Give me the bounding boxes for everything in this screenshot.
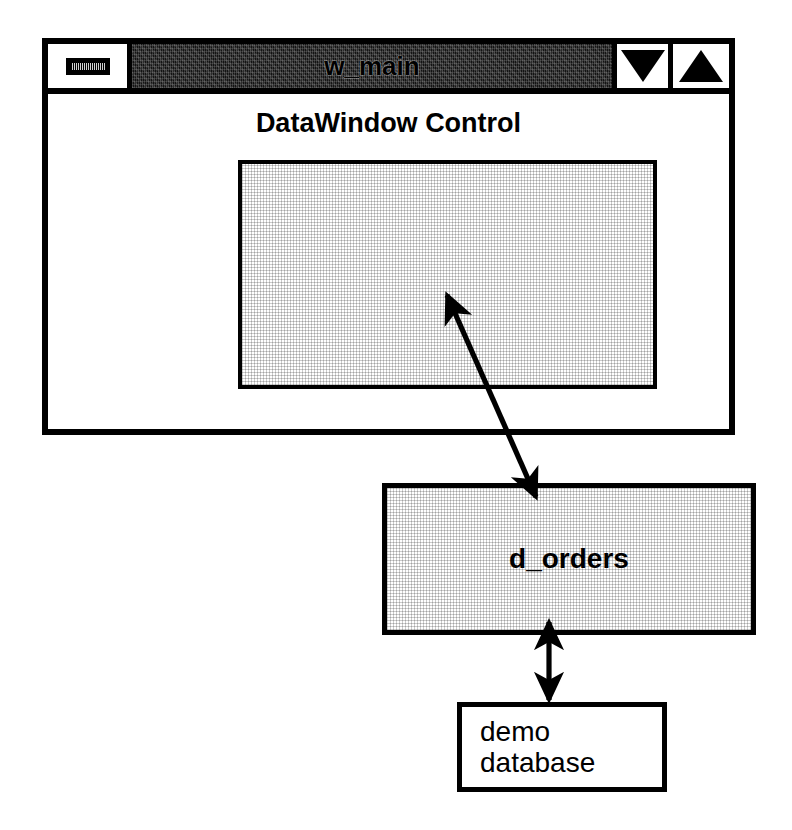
datawindow-object-d-orders[interactable]: d_orders [382, 483, 756, 635]
application-window: w_main DataWindow Control [42, 38, 735, 435]
database-node[interactable]: demo database [457, 702, 667, 792]
window-caption: w_main [132, 44, 617, 88]
minimize-button[interactable] [617, 44, 673, 88]
datawindow-control-label: DataWindow Control [48, 110, 729, 137]
datawindow-control[interactable] [238, 160, 657, 389]
window-menu-bar-icon [66, 58, 110, 75]
database-label-line1: demo [480, 716, 662, 747]
triangle-up-icon [679, 50, 723, 82]
triangle-down-icon [621, 50, 665, 82]
diagram-canvas: w_main DataWindow Control d_orders demo … [0, 0, 792, 830]
window-title-text: w_main [324, 53, 419, 79]
system-menu-button[interactable] [48, 44, 132, 88]
datawindow-object-label: d_orders [509, 545, 629, 573]
database-label-line2: database [480, 747, 662, 778]
window-client-area: DataWindow Control [48, 94, 729, 429]
maximize-button[interactable] [673, 44, 729, 88]
window-title-bar[interactable]: w_main [48, 44, 729, 94]
